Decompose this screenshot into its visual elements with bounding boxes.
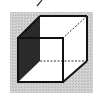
top-mark: [37, 0, 42, 6]
cube-figure: [0, 0, 99, 100]
